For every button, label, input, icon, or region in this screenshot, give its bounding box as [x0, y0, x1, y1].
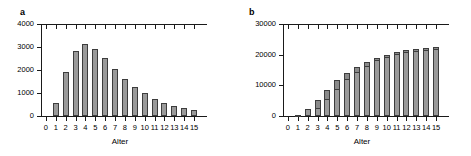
- x-tick-label: 8: [123, 124, 127, 132]
- x-tick-label: 12: [402, 124, 410, 132]
- bar-segment-upper: [374, 58, 380, 62]
- bar-segment-upper: [324, 90, 330, 101]
- x-tick-label: 0: [44, 124, 48, 132]
- x-tick: [135, 117, 136, 121]
- x-tick-label: 9: [375, 124, 379, 132]
- x-tick: [426, 117, 427, 121]
- bar: [354, 67, 360, 116]
- bar-segment-upper: [394, 52, 400, 55]
- top-axis-tick: [288, 25, 289, 29]
- x-tick: [145, 117, 146, 121]
- bar: [171, 106, 177, 116]
- y-tick: [37, 47, 41, 48]
- y-axis-line: [41, 24, 42, 117]
- x-tick-label: 15: [432, 124, 440, 132]
- bar-segment-upper: [384, 55, 390, 59]
- top-axis-tick: [164, 25, 165, 29]
- x-tick-label: 3: [73, 124, 77, 132]
- bar: [92, 49, 98, 116]
- x-tick: [105, 117, 106, 121]
- x-tick-label: 10: [141, 124, 149, 132]
- x-tick-label: 6: [345, 124, 349, 132]
- x-tick-label: 13: [170, 124, 178, 132]
- y-tick-label: 3000: [0, 43, 34, 51]
- x-tick: [357, 117, 358, 121]
- bar: [413, 49, 419, 116]
- x-tick: [66, 117, 67, 121]
- top-axis-tick: [95, 25, 96, 29]
- bar-segment-upper: [403, 50, 409, 53]
- bar-segment-upper: [315, 100, 321, 109]
- x-tick-label: 10: [383, 124, 391, 132]
- x-tick: [76, 117, 77, 121]
- x-tick: [288, 117, 289, 121]
- top-axis-tick: [357, 25, 358, 29]
- bar: [315, 100, 321, 116]
- y-tick-label: 20000: [235, 51, 276, 59]
- x-tick-label: 1: [296, 124, 300, 132]
- top-axis-tick: [194, 25, 195, 29]
- x-tick-label: 12: [160, 124, 168, 132]
- panel-a-plot-area: 010002000300040000123456789101112131415A…: [0, 0, 236, 156]
- x-tick: [85, 117, 86, 121]
- top-axis-tick: [85, 25, 86, 29]
- bar: [423, 48, 429, 116]
- panel-b-plot-area: 01000020000300000123456789101112131415Al…: [235, 0, 471, 156]
- y-tick: [279, 116, 283, 117]
- bar: [53, 103, 59, 116]
- x-tick-label: 0: [286, 124, 290, 132]
- x-tick: [194, 117, 195, 121]
- x-axis-title: Alter: [112, 138, 128, 146]
- bar: [324, 90, 330, 116]
- top-axis-tick: [115, 25, 116, 29]
- x-tick: [125, 117, 126, 121]
- x-tick: [298, 117, 299, 121]
- x-tick: [115, 117, 116, 121]
- top-axis-tick: [347, 25, 348, 29]
- bar: [305, 109, 311, 116]
- top-axis-tick: [367, 25, 368, 29]
- top-axis-tick: [174, 25, 175, 29]
- x-tick: [347, 117, 348, 121]
- top-axis-tick: [397, 25, 398, 29]
- top-axis-tick: [337, 25, 338, 29]
- y-tick-label: 0: [235, 112, 276, 120]
- x-tick-label: 11: [393, 124, 401, 132]
- top-axis-tick: [318, 25, 319, 29]
- x-tick-label: 11: [151, 124, 159, 132]
- x-tick-label: 8: [365, 124, 369, 132]
- bar: [112, 69, 118, 116]
- x-tick: [337, 117, 338, 121]
- bar: [334, 80, 340, 116]
- x-tick: [387, 117, 388, 121]
- y-tick: [37, 70, 41, 71]
- top-axis-tick: [416, 25, 417, 29]
- bar: [394, 52, 400, 116]
- panel-b: b 01000020000300000123456789101112131415…: [235, 0, 471, 156]
- x-tick-label: 15: [190, 124, 198, 132]
- y-tick-label: 30000: [235, 20, 276, 28]
- x-tick-label: 4: [325, 124, 329, 132]
- bar: [161, 103, 167, 116]
- top-axis-tick: [56, 25, 57, 29]
- x-tick: [46, 117, 47, 121]
- bar: [152, 99, 158, 116]
- x-tick: [155, 117, 156, 121]
- y-tick-label: 0: [0, 112, 34, 120]
- bar-segment-upper: [344, 73, 350, 80]
- top-axis-tick: [135, 25, 136, 29]
- x-tick: [308, 117, 309, 121]
- y-axis-line: [283, 24, 284, 117]
- bar: [102, 58, 108, 116]
- x-tick: [406, 117, 407, 121]
- bar: [82, 44, 88, 116]
- x-tick: [184, 117, 185, 121]
- bar: [132, 87, 138, 116]
- top-axis-tick: [105, 25, 106, 29]
- top-axis-tick: [145, 25, 146, 29]
- x-tick-label: 6: [103, 124, 107, 132]
- x-tick: [397, 117, 398, 121]
- y-tick: [37, 116, 41, 117]
- x-axis-title: Alter: [354, 138, 370, 146]
- top-axis-tick: [184, 25, 185, 29]
